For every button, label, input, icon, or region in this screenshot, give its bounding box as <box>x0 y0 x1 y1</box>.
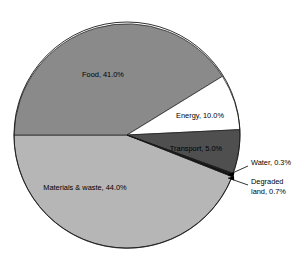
pie-label-water: Water, 0.3% <box>251 158 291 167</box>
pie-chart-svg: Food, 41.0% Energy, 10.0% Transport, 5.0… <box>0 0 308 262</box>
pie-label-degraded-land-line1: Degraded <box>251 177 283 186</box>
pie-label-transport: Transport, 5.0% <box>170 144 223 153</box>
pie-label-degraded-land-line2: land, 0.7% <box>251 187 286 196</box>
pie-label-food: Food, 41.0% <box>82 70 124 79</box>
pie-label-energy: Energy, 10.0% <box>176 111 224 120</box>
pie-chart: Food, 41.0% Energy, 10.0% Transport, 5.0… <box>0 0 308 262</box>
pie-label-materials-waste: Materials & waste, 44.0% <box>43 183 127 192</box>
leader-degraded-land <box>228 176 248 185</box>
